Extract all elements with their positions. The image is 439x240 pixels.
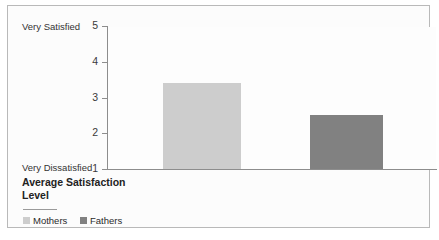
bars-layer bbox=[8, 6, 431, 169]
bar-mothers bbox=[163, 83, 241, 169]
y-axis-title-line-2: Level bbox=[22, 189, 132, 202]
legend-item-fathers[interactable]: Fathers bbox=[80, 215, 122, 226]
legend-label: Mothers bbox=[33, 215, 67, 226]
y-axis-title: Average Satisfaction Level bbox=[22, 176, 132, 201]
legend-divider bbox=[23, 209, 57, 210]
y-tick-mark bbox=[102, 169, 108, 170]
legend-swatch-icon bbox=[23, 217, 30, 224]
legend-swatch-icon bbox=[80, 217, 87, 224]
bar-fathers bbox=[310, 115, 383, 169]
chart-figure: Very Satisfied Very Dissatisfied 54321 A… bbox=[0, 0, 439, 240]
x-axis-baseline bbox=[107, 169, 437, 170]
y-axis-title-line-1: Average Satisfaction bbox=[22, 176, 132, 189]
legend-label: Fathers bbox=[90, 215, 122, 226]
chart-panel: Very Satisfied Very Dissatisfied 54321 A… bbox=[7, 5, 430, 228]
legend-item-mothers[interactable]: Mothers bbox=[23, 215, 67, 226]
